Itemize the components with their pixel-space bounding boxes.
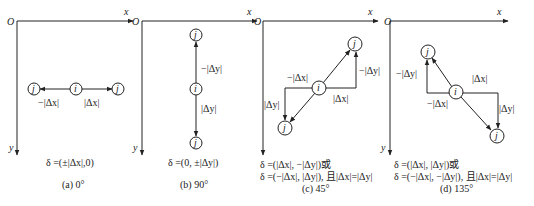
y-axis-label-b: y	[132, 142, 138, 153]
panel-c	[263, 21, 378, 155]
edge-label: −|Δx|	[38, 97, 59, 108]
origin-label-d: O	[384, 16, 391, 27]
formula-c-line1: δ =(|Δx|, −|Δy|)或	[260, 159, 331, 171]
component-arrow-left-down	[285, 88, 313, 120]
formula-a: δ =(±|Δx|,0)	[46, 157, 94, 169]
edge-label: |Δy|	[201, 103, 216, 114]
edge-label: |Δx|	[472, 73, 487, 84]
origin-label-c: O	[254, 16, 261, 27]
edge-label: −|Δx|	[287, 72, 308, 83]
node-i-label: i	[454, 86, 457, 97]
origin-label-a: O	[7, 16, 14, 27]
component-arrow-right-up	[325, 52, 356, 88]
panel-d	[390, 21, 508, 155]
edge-label: |Δx|	[84, 97, 99, 108]
component-arrow-left-up	[427, 60, 450, 93]
node-i-label: i	[194, 83, 197, 94]
panel-b	[142, 21, 257, 155]
component-arrow-right-down	[462, 93, 498, 128]
edge-label: −|Δy|	[359, 65, 380, 76]
edge-label: −|Δx|	[427, 98, 448, 109]
x-axis-label-c: x	[367, 6, 373, 17]
edge-label: |Δy|	[264, 99, 279, 110]
x-axis-label-b: x	[246, 6, 252, 17]
caption-b: (b) 90°	[180, 179, 208, 191]
y-axis-label-d: y	[380, 142, 386, 153]
node-i-label: i	[74, 83, 77, 94]
formula-b: δ =(0, ±|Δy|)	[168, 157, 218, 169]
arrow-diag-up-left	[432, 58, 452, 87]
node-i-label: i	[317, 82, 320, 93]
formula-d-line1: δ =(|Δx|, |Δy|)或	[394, 159, 459, 171]
arrow-diag-down-right	[461, 97, 491, 130]
caption-c: (c) 45°	[302, 183, 330, 195]
caption-d: (d) 135°	[440, 183, 473, 195]
caption-a: (a) 0°	[62, 179, 85, 191]
edge-label: −|Δy|	[396, 68, 417, 79]
arrow-diag-up-right	[323, 50, 350, 83]
formula-c-line2: δ =(−|Δx|, |Δy|), 且|Δx|=|Δy|	[260, 171, 373, 183]
arrow-diag-down-left	[290, 93, 315, 122]
edge-label: |Δx|	[333, 93, 348, 104]
formula-d-line2: δ =(−|Δx|, −|Δy|), 且|Δx|=|Δy|	[394, 171, 512, 183]
origin-label-b: O	[132, 16, 139, 27]
y-axis-label-a: y	[8, 142, 14, 153]
x-axis-label-a: x	[123, 6, 129, 17]
edge-label: |Δy|	[499, 103, 514, 114]
x-axis-label-d: x	[496, 6, 502, 17]
edge-label: −|Δy|	[201, 63, 222, 74]
